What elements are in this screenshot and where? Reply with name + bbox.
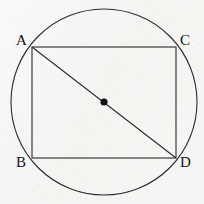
circle-center-dot <box>100 98 107 105</box>
vertex-label-b: B <box>16 155 26 170</box>
geometry-figure: A C B D <box>0 0 204 204</box>
vertex-label-a: A <box>16 33 27 48</box>
vertex-label-c: C <box>180 33 190 48</box>
vertex-label-d: D <box>180 155 191 170</box>
geometry-canvas <box>0 0 204 204</box>
